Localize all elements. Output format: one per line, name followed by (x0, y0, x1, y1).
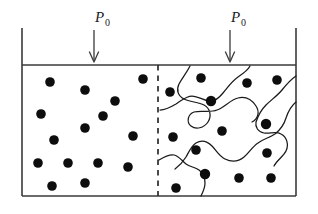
polymer-chain-2 (160, 66, 250, 110)
particle (196, 73, 206, 83)
particle (80, 123, 90, 133)
particle (98, 111, 108, 121)
particle (242, 78, 252, 88)
particle (217, 126, 227, 136)
right-pressure-label: P 0 (230, 9, 246, 28)
particle (168, 132, 178, 142)
particle (63, 158, 73, 168)
right-pressure-arrow (226, 30, 235, 62)
particle (266, 173, 276, 183)
particle (47, 181, 57, 191)
right-pressure-subscript: 0 (241, 17, 246, 28)
particle (110, 96, 120, 106)
osmosis-figure: P 0 P 0 (0, 0, 318, 214)
particle (36, 109, 46, 119)
particle (165, 87, 175, 97)
particle (272, 75, 282, 85)
container-walls (22, 28, 296, 196)
particle (49, 135, 59, 145)
particle (138, 74, 148, 84)
polymer-chain-5 (159, 155, 205, 196)
left-pressure-symbol: P (94, 9, 104, 25)
left-pressure-subscript: 0 (105, 17, 110, 28)
left-pressure-label: P 0 (94, 9, 110, 28)
particle (123, 162, 133, 172)
particle (234, 173, 244, 183)
particle (80, 85, 90, 95)
particle (200, 169, 210, 179)
right-pressure-symbol: P (230, 9, 240, 25)
particle (206, 96, 216, 106)
polymer-chain-1 (178, 66, 258, 128)
particle (93, 158, 103, 168)
particle (262, 148, 272, 158)
particle (171, 183, 181, 193)
particle (80, 178, 90, 188)
particle (261, 119, 271, 129)
particle (45, 77, 55, 87)
particle (33, 158, 43, 168)
left-pressure-arrow (90, 30, 99, 62)
left-chamber-particles (33, 74, 148, 191)
particle (191, 145, 201, 155)
particle (128, 131, 138, 141)
figure-canvas: P 0 P 0 (0, 0, 318, 214)
